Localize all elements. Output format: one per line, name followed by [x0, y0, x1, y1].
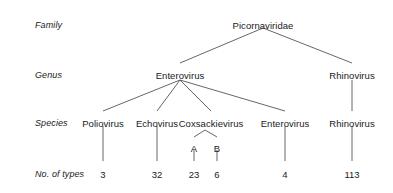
edge-coxsackievirus-to-a: [194, 130, 205, 137]
edge-family-to-rhinovirus: [263, 28, 352, 63]
species-node-1: Poliovirus: [82, 118, 124, 129]
species-node-2: Echovirus: [136, 118, 178, 129]
subtype-node-1: A: [191, 143, 197, 154]
family-node-1: Picornaviridae: [233, 20, 294, 31]
count-value-1: 3: [100, 169, 105, 180]
genus-node-1: Enterovirus: [156, 70, 205, 81]
edge-coxsackievirus-to-b: [205, 130, 217, 137]
count-value-2: 32: [152, 169, 163, 180]
subtype-node-2: B: [214, 143, 220, 154]
count-value-4: 6: [214, 169, 219, 180]
species-node-3: Coxsackievirus: [179, 118, 244, 129]
edge-family-to-enterovirus: [180, 28, 263, 63]
row-label-no-of-types: No. of types: [35, 169, 84, 179]
count-value-6: 113: [344, 169, 359, 180]
row-label-genus: Genus: [35, 70, 62, 80]
row-label-family: Family: [35, 20, 62, 30]
taxonomy-diagram: FamilyGenusSpeciesNo. of types Picornavi…: [0, 0, 393, 193]
row-label-species: Species: [35, 118, 68, 128]
genus-node-2: Rhinovirus: [329, 70, 374, 81]
species-node-5: Rhinovirus: [329, 118, 374, 129]
species-node-4: Enterovirus: [261, 118, 310, 129]
count-value-3: 23: [189, 169, 200, 180]
count-value-5: 4: [282, 169, 287, 180]
